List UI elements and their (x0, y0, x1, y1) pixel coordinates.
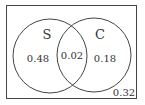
s-only-value: 0.48 (27, 53, 49, 64)
set-c-label: C (95, 27, 105, 42)
c-only-value: 0.18 (94, 53, 116, 64)
set-s-label: S (43, 27, 52, 42)
outside-value: 0.32 (113, 87, 135, 98)
intersection-value: 0.02 (61, 50, 83, 61)
venn-diagram: S C 0.48 0.02 0.18 0.32 (0, 0, 145, 105)
